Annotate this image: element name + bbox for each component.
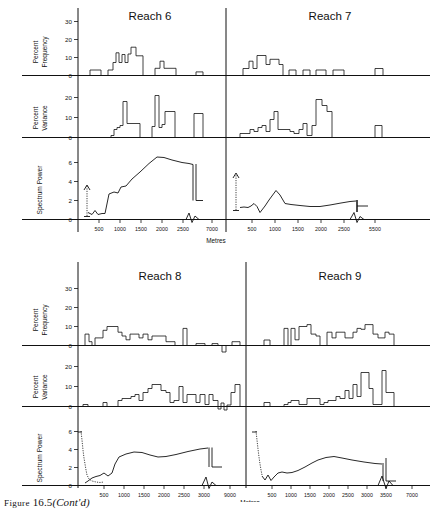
caption-number: 16.5: [33, 496, 53, 508]
chart-svg-top: Reach 6 Reach 7 Percent Frequency 30 20 …: [0, 0, 434, 250]
histogram-var-reach-9: [252, 371, 430, 407]
histogram-var-reach-7: [232, 100, 430, 138]
axis-break-reach-6: [193, 164, 203, 201]
ytick-var-20: 20: [65, 94, 72, 101]
xtick-r7-500: 500: [248, 226, 257, 232]
xtick-r9-1000: 1000: [285, 492, 297, 498]
spectrum-dotted-head-reach-9: [256, 431, 262, 475]
axis-break-reach-7: [357, 200, 368, 212]
panel-block-reach-6-7: Reach 6 Reach 7 Percent Frequency 30 20 …: [0, 0, 434, 250]
row-spectrum-power-bottom: Spectrum Power 6 4 2 0 500: [22, 428, 430, 502]
spectrum-curve-reach-9: [262, 457, 382, 481]
histogram-freq-reach-7: [232, 56, 430, 76]
ytick-var-20-b: 20: [65, 363, 72, 370]
xtick-r8-2000: 2000: [158, 492, 170, 498]
ylabel-percent-variance-line1-b: Percent: [32, 375, 39, 398]
xtick-r7-2000: 2000: [315, 226, 327, 232]
ylabel-percent-frequency-line1-b: Percent: [32, 308, 39, 331]
axis-break-wiggle-reach-6: [186, 213, 199, 223]
annotation-arrow-reach-7: [233, 173, 239, 211]
ytick-var-10-b: 10: [65, 383, 72, 390]
spectrum-curve-reach-7: [240, 191, 356, 213]
xtick-r8-500: 500: [100, 492, 109, 498]
panel-title-reach-8: Reach 8: [139, 270, 182, 282]
histogram-freq-reach-9: [252, 325, 430, 346]
xtick-r7-1500: 1500: [292, 226, 304, 232]
figure-caption: Figure 16.5(Cont'd): [4, 496, 90, 508]
ylabel-percent-variance-line2-b: Variance: [41, 374, 48, 400]
xtick-r6-500: 500: [95, 226, 104, 232]
ylabel-percent-frequency-line2-b: Frequency: [41, 304, 49, 336]
ylabel-percent-variance-line2: Variance: [41, 105, 48, 131]
axis-break-reach-8: [209, 448, 222, 468]
axis-break-wiggle-reach-7: [350, 213, 364, 223]
ytick-freq-10: 10: [65, 54, 72, 61]
ytick-freq-30-b: 30: [65, 285, 72, 292]
spectrum-curve-reach-6: [88, 157, 193, 215]
xaxis-label-metres-bottom: Metres: [240, 499, 260, 502]
ytick-var-10: 10: [65, 114, 72, 121]
xaxis-label-metres-top: Metres: [206, 237, 226, 244]
panel-block-reach-8-9: Reach 8 Reach 9 Percent Frequency 30 20 …: [0, 262, 434, 502]
xtick-r6-1500: 1500: [135, 226, 147, 232]
xtick-r9-3500: 3500: [380, 492, 392, 498]
xtick-r9-3000: 3000: [361, 492, 373, 498]
caption-note: (Cont'd): [52, 496, 89, 508]
ylabel-spectrum-power: Spectrum Power: [36, 165, 44, 215]
row-percent-frequency-bottom: Percent Frequency 30 20 10 0: [22, 285, 430, 352]
xtick-r6-7000: 7000: [206, 226, 218, 232]
xtick-r9-2500: 2500: [342, 492, 354, 498]
xtick-r9-7000: 7000: [406, 492, 418, 498]
histogram-var-reach-6: [108, 96, 226, 138]
xticks-reach-6: [99, 220, 212, 224]
axis-break-wiggle-reach-9: [378, 476, 393, 489]
panel-title-reach-9: Reach 9: [319, 270, 362, 282]
figure-16-5: Reach 6 Reach 7 Percent Frequency 30 20 …: [0, 0, 434, 519]
xticks-reach-8: [104, 486, 230, 490]
xtick-r7-2500: 2500: [338, 226, 350, 232]
ylabel-spectrum-power-b: Spectrum Power: [36, 433, 44, 483]
panel-title-reach-7: Reach 7: [309, 10, 352, 22]
xtick-r9-2000: 2000: [323, 492, 335, 498]
xtick-r8-1000: 1000: [118, 492, 130, 498]
panel-title-reach-6: Reach 6: [129, 10, 172, 22]
caption-prefix: Figure: [4, 498, 30, 508]
ytick-freq-20: 20: [65, 36, 72, 43]
xtick-r9-1500: 1500: [304, 492, 316, 498]
ylabel-percent-frequency-line1: Percent: [32, 40, 39, 63]
xtick-r8-9000: 9000: [224, 492, 236, 498]
xtick-r8-1500: 1500: [138, 492, 150, 498]
ylabel-percent-frequency-line2: Frequency: [41, 36, 49, 68]
ytick-spec-6-b: 6: [69, 428, 73, 435]
ytick-spec-2-b: 2: [69, 464, 73, 471]
xtick-r6-1000: 1000: [114, 226, 126, 232]
ytick-spec-4: 4: [69, 178, 73, 185]
histogram-freq-reach-6: [84, 47, 226, 75]
xtick-r6-2500: 2500: [177, 226, 189, 232]
ytick-freq-10-b: 10: [65, 323, 72, 330]
xtick-r8-3000: 3000: [198, 492, 210, 498]
spectrum-curve-reach-8: [85, 448, 208, 483]
annotation-arrow-reach-6: [84, 185, 90, 217]
ylabel-percent-variance-line1: Percent: [32, 106, 39, 129]
chart-svg-bottom: Reach 8 Reach 9 Percent Frequency 30 20 …: [0, 262, 434, 502]
xtick-r7-5500: 5500: [369, 226, 381, 232]
ytick-freq-20-b: 20: [65, 304, 72, 311]
row-percent-variance-bottom: Percent Variance 20 10 0: [22, 363, 430, 410]
axis-break-reach-9: [383, 458, 396, 481]
ytick-spec-6: 6: [69, 159, 73, 166]
xtick-r9-500: 500: [268, 492, 277, 498]
ytick-spec-4-b: 4: [69, 446, 73, 453]
ytick-freq-30: 30: [65, 18, 72, 25]
ytick-spec-2: 2: [69, 197, 73, 204]
xtick-r8-2500: 2500: [178, 492, 190, 498]
xtick-r7-1000: 1000: [269, 226, 281, 232]
xticks-reach-9: [272, 486, 412, 490]
histogram-freq-reach-8: [82, 327, 246, 353]
xtick-r6-2000: 2000: [156, 226, 168, 232]
